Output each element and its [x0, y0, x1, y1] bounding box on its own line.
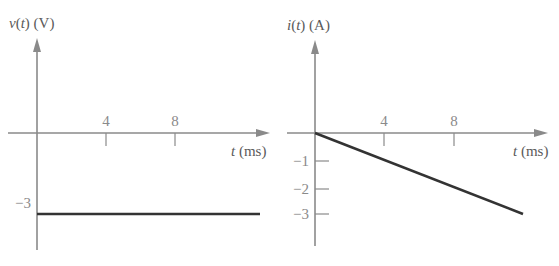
y-tick-label: −2 — [293, 181, 309, 197]
x-axis-arrow-icon — [256, 129, 270, 137]
y-tick-label: −3 — [293, 206, 309, 222]
y-axis-label: i(t) (A) — [287, 17, 330, 34]
x-axis-label: t (ms) — [231, 143, 266, 160]
x-axis-arrow-icon — [534, 129, 548, 137]
y-axis-arrow-icon — [311, 40, 319, 54]
x-tick-label: 8 — [450, 113, 458, 129]
x-tick-label: 4 — [102, 113, 110, 129]
voltage-chart: 4 8 −3 v(t) (V) t (ms) — [8, 15, 270, 250]
figure: 4 8 −3 v(t) (V) t (ms) 4 8 −1 −2 −3 i(t)… — [0, 0, 559, 266]
y-axis-label: v(t) (V) — [9, 15, 54, 32]
current-chart: 4 8 −1 −2 −3 i(t) (A) t (ms) — [287, 17, 548, 246]
x-tick-label: 4 — [380, 113, 388, 129]
y-tick-label: −1 — [293, 153, 309, 169]
x-axis-label: t (ms) — [513, 143, 548, 160]
y-axis-arrow-icon — [33, 38, 41, 52]
y-tick-label: −3 — [15, 195, 31, 211]
current-line — [315, 133, 523, 214]
x-tick-label: 8 — [171, 113, 179, 129]
